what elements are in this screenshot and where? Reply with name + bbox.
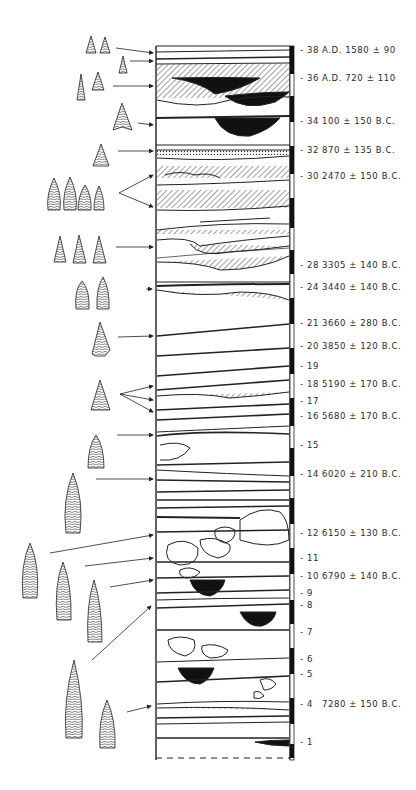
stratum-label-20: - 203850 ± 120 B.C. (300, 341, 401, 351)
projectile-points (22, 36, 132, 748)
stratum-label-34: - 34100 ± 150 B.C. (300, 116, 395, 126)
stratum-label-10: - 106790 ± 140 B.C. (300, 571, 401, 581)
stratum-label-8: - 8 (300, 600, 322, 610)
stratum-label-38: - 38A.D. 1580 ± 90 (300, 45, 396, 55)
stratigraphic-figure: - 38A.D. 1580 ± 90 - 36A.D. 720 ± 110 - … (0, 0, 416, 790)
stratum-label-36: - 36A.D. 720 ± 110 (300, 73, 396, 83)
stratum-label-16: - 165680 ± 170 B.C. (300, 411, 401, 421)
stratum-label-24: - 243440 ± 140 B.C. (300, 282, 401, 292)
stratum-label-15: - 15 (300, 440, 322, 450)
stratum-label-1: - 1 (300, 737, 322, 747)
stratum-label-21: - 213660 ± 280 B.C. (300, 318, 401, 328)
stratum-label-9: - 9 (300, 588, 322, 598)
stratum-label-19: - 19 (300, 361, 322, 371)
stratum-label-28: - 283305 ± 140 B.C. (300, 260, 401, 270)
stratum-label-12: - 126150 ± 130 B.C. (300, 528, 401, 538)
stratum-label-30: - 302470 ± 150 B.C. (300, 171, 401, 181)
stratum-label-11: - 11 (300, 553, 322, 563)
stratum-label-4: - 47280 ± 150 B.C. (300, 699, 401, 709)
stratum-label-14: - 146020 ± 210 B.C. (300, 469, 401, 479)
stratum-label-7: - 7 (300, 627, 322, 637)
stratum-label-6: - 6 (300, 654, 322, 664)
scale-bar (290, 46, 294, 760)
stratum-label-18: - 185190 ± 170 B.C. (300, 379, 401, 389)
stratum-label-17: - 17 (300, 396, 322, 406)
stratum-label-5: - 5 (300, 669, 322, 679)
strata (156, 50, 290, 746)
stratum-label-32: - 32870 ± 135 B.C. (300, 145, 395, 155)
